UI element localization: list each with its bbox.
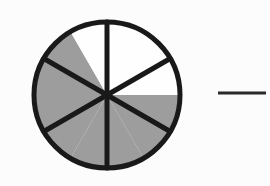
fraction-circle-svg [0,0,270,186]
worksheet-figure-canvas [0,0,270,186]
